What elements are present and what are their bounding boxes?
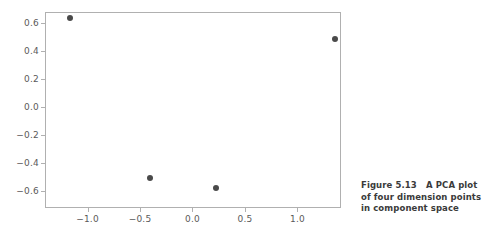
y-tick-label: −0.4 [16,158,39,168]
caption-line: Figure 5.13 A PCA plot [361,180,493,192]
x-tick-label: 0.0 [185,214,200,224]
y-tick-mark [41,163,45,164]
pca-scatter-figure: −1.0−0.50.00.51.0 0.60.40.20.0−0.2−0.4−0… [0,0,355,242]
scatter-point [213,185,219,191]
y-tick-label: −0.2 [16,130,39,140]
y-tick-mark [41,191,45,192]
y-tick-mark [41,107,45,108]
x-tick-mark [297,208,298,212]
y-tick-label: −0.6 [16,186,39,196]
caption-line: of four dimension points [361,192,493,204]
x-tick-label: 0.5 [237,214,252,224]
x-tick-mark [88,208,89,212]
y-tick-mark [41,79,45,80]
y-tick-label: 0.4 [24,46,39,56]
y-tick-mark [41,51,45,52]
y-tick-label: 0.0 [24,102,39,112]
scatter-point [332,36,338,42]
y-tick-label: 0.6 [24,18,39,28]
x-tick-label: −0.5 [129,214,152,224]
y-tick-mark [41,23,45,24]
x-tick-label: −1.0 [76,214,99,224]
y-tick-label: 0.2 [24,74,39,84]
x-tick-mark [192,208,193,212]
axis-spine-right [340,12,341,208]
axis-spine-top [45,12,341,13]
figure-caption: Figure 5.13 A PCA plotof four dimension … [361,180,493,215]
scatter-point [147,175,153,181]
x-tick-label: 1.0 [290,214,305,224]
axis-spine-left [45,12,46,208]
y-tick-mark [41,135,45,136]
x-tick-mark [140,208,141,212]
scatter-point [67,15,73,21]
plot-area: −1.0−0.50.00.51.0 0.60.40.20.0−0.2−0.4−0… [45,12,341,208]
caption-line: in component space [361,203,493,215]
x-tick-mark [245,208,246,212]
figure-page: −1.0−0.50.00.51.0 0.60.40.20.0−0.2−0.4−0… [0,0,497,242]
